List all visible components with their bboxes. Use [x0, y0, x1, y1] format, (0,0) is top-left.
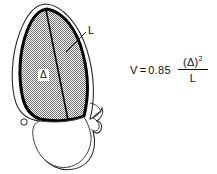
volume-formula: V = 0.85 (Δ)2 L: [130, 56, 208, 84]
ventricle-diagram: [0, 0, 217, 174]
formula-equals-sign: =: [140, 64, 146, 76]
appendage-notch: [90, 103, 101, 131]
ventricular-cavity: [20, 9, 87, 121]
aortic-marker-circle: [21, 119, 27, 125]
atrial-lobe: [33, 117, 91, 168]
fraction-numerator: (Δ)2: [180, 56, 205, 69]
formula-fraction: (Δ)2 L: [178, 56, 208, 84]
formula-coefficient: 0.85: [148, 64, 171, 76]
formula-variable: V: [130, 64, 138, 76]
numerator-base: (Δ): [183, 56, 198, 68]
long-axis-label: L: [88, 25, 94, 36]
ventriculogram-figure: L Δ V = 0.85 (Δ)2 L: [0, 0, 217, 174]
area-label: Δ: [38, 69, 49, 81]
numerator-exponent: 2: [198, 55, 202, 62]
fraction-denominator: L: [190, 70, 196, 84]
